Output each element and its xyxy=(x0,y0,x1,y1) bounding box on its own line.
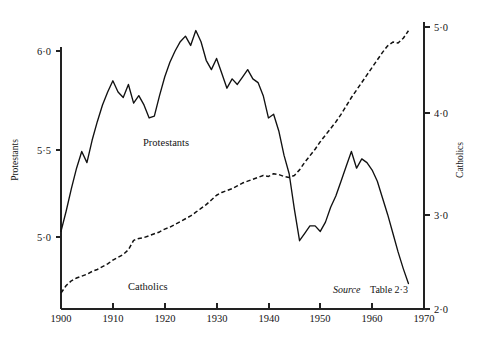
right-tick-label-5-0: 5·0 xyxy=(434,22,448,33)
x-tick-label-1970: 1970 xyxy=(414,313,435,324)
x-tick-label-1940: 1940 xyxy=(259,313,280,324)
chart-figure: 6·0 5·5 5·0 5·0 4·0 3·0 2·0 1900 19 xyxy=(0,0,479,337)
x-axis-ticks: 1900 1910 1920 1930 1940 1950 1960 1970 xyxy=(51,303,435,324)
series-label-catholics: Catholics xyxy=(128,281,168,292)
left-axis-title: Protestants xyxy=(10,139,20,181)
left-axis-ticks: 6·0 5·5 5·0 xyxy=(37,46,61,243)
series-label-protestants: Protestants xyxy=(143,137,189,148)
right-tick-label-4-0: 4·0 xyxy=(434,108,448,119)
x-tick-label-1900: 1900 xyxy=(51,313,72,324)
source-note-prefix: Source xyxy=(333,284,361,295)
x-tick-label-1960: 1960 xyxy=(362,313,383,324)
right-tick-label-3-0: 3·0 xyxy=(434,210,448,221)
series-line-catholics xyxy=(61,31,408,293)
right-axis-ticks: 5·0 4·0 3·0 2·0 xyxy=(424,22,448,315)
right-tick-label-2-0: 2·0 xyxy=(434,304,448,315)
left-tick-label-6-0: 6·0 xyxy=(37,46,51,57)
left-tick-label-5-5: 5·5 xyxy=(37,145,51,156)
left-tick-label-5-0: 5·0 xyxy=(37,232,51,243)
source-note: Source Table 2·3 xyxy=(333,284,408,295)
series-line-protestants xyxy=(61,31,408,284)
source-note-text: Table 2·3 xyxy=(370,284,408,295)
x-tick-label-1910: 1910 xyxy=(103,313,124,324)
x-tick-label-1950: 1950 xyxy=(310,313,331,324)
right-axis-title: Catholics xyxy=(455,142,465,178)
x-tick-label-1920: 1920 xyxy=(155,313,176,324)
line-chart-canvas: 6·0 5·5 5·0 5·0 4·0 3·0 2·0 1900 19 xyxy=(0,0,479,337)
x-tick-label-1930: 1930 xyxy=(207,313,228,324)
